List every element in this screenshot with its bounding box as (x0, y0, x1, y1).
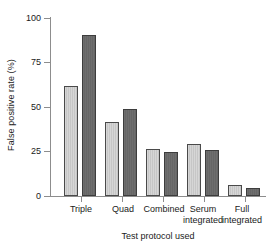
y-tick-label-0: 0 (0, 192, 41, 201)
bar-triple-dark (82, 35, 96, 196)
plot-area (50, 18, 266, 196)
y-tick-label-75: 75 (0, 58, 41, 67)
x-tick-mark-serum-integrated (204, 197, 205, 202)
bar-quad-light (105, 122, 119, 196)
x-tick-mark-combined (163, 197, 164, 202)
bar-serum-integrated-light (187, 144, 201, 196)
bar-full-integrated-dark (246, 188, 260, 196)
x-tick-mark-quad (122, 197, 123, 202)
bar-serum-integrated-dark (205, 150, 219, 196)
x-tick-mark-triple (81, 197, 82, 202)
bar-combined-dark (164, 152, 178, 196)
bar-combined-light (146, 149, 160, 196)
x-label-full-integrated: Full integrated (212, 204, 272, 226)
bar-full-integrated-light (228, 185, 242, 196)
x-axis-line (50, 196, 266, 197)
y-tick-label-100: 100 (0, 14, 41, 23)
x-axis-title: Test protocol used (50, 231, 266, 242)
bar-chart-figure: False positive rate (%) 100 75 50 25 0 T… (0, 0, 272, 248)
bar-triple-light (64, 86, 78, 196)
x-tick-mark-full-integrated (245, 197, 246, 202)
y-tick-label-50: 50 (0, 103, 41, 112)
bar-quad-dark (123, 109, 137, 196)
y-tick-label-25: 25 (0, 147, 41, 156)
